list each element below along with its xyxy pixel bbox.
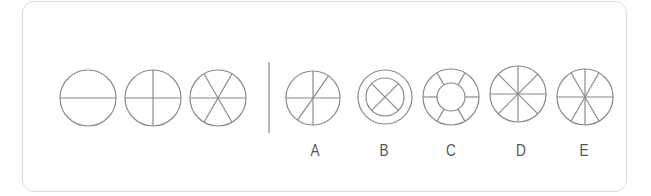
option-b-label[interactable]: B [376, 143, 393, 159]
sequence-figure-1 [60, 70, 116, 126]
option-c-figure[interactable] [423, 69, 479, 125]
option-b-figure[interactable] [358, 70, 412, 124]
option-d-figure[interactable] [490, 66, 546, 122]
option-a-figure[interactable] [286, 71, 340, 125]
option-e-label[interactable]: E [576, 143, 593, 159]
option-a-label[interactable]: A [307, 143, 324, 159]
option-c-label[interactable]: C [443, 143, 460, 159]
puzzle-figures [0, 0, 651, 196]
sequence-figure-2 [125, 70, 181, 126]
option-e-figure[interactable] [557, 69, 613, 125]
sequence-figure-3 [190, 70, 246, 126]
option-d-label[interactable]: D [513, 143, 530, 159]
